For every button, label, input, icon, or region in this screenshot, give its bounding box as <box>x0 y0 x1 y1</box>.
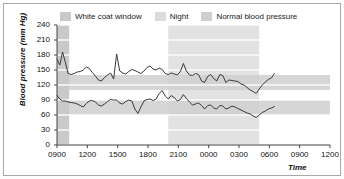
y-tick-label: 0 <box>28 140 50 149</box>
y-tick-label: 210 <box>28 35 50 44</box>
normal-diastolic-band <box>57 100 330 115</box>
x-tick-label: 1500 <box>104 150 132 159</box>
x-tick-label: 0000 <box>195 150 223 159</box>
x-tick-label: 0900 <box>43 150 71 159</box>
x-tick-label: 0600 <box>255 150 283 159</box>
y-tick-label: 240 <box>28 20 50 29</box>
figure-container: White coat window Night Normal blood pre… <box>0 0 344 179</box>
y-tick-label: 120 <box>28 80 50 89</box>
y-tick-label: 60 <box>28 110 50 119</box>
y-tick-label: 30 <box>28 125 50 134</box>
y-tick-label: 150 <box>28 65 50 74</box>
x-tick-label: 0300 <box>225 150 253 159</box>
y-tick-label: 180 <box>28 50 50 59</box>
x-tick-label: 1200 <box>316 150 344 159</box>
normal-systolic-band <box>57 75 330 90</box>
y-tick-label: 90 <box>28 95 50 104</box>
x-tick-label: 0900 <box>286 150 314 159</box>
x-tick-label: 2100 <box>164 150 192 159</box>
plot-area-wrapper: 2402101801501209060300090012001500180021… <box>0 0 344 179</box>
x-tick-label: 1800 <box>134 150 162 159</box>
x-tick-label: 1200 <box>73 150 101 159</box>
